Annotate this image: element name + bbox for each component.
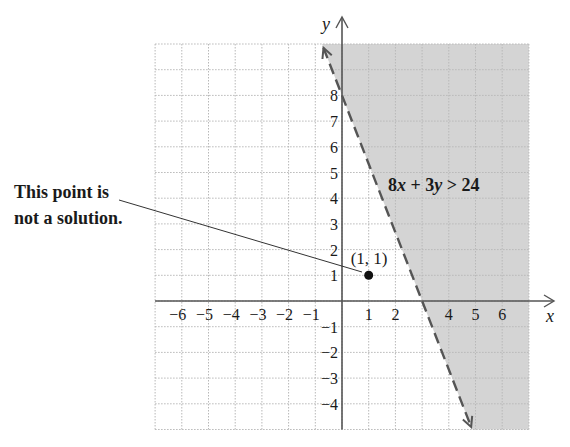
y-tick-label: 2 [330, 242, 338, 259]
annotation-line-1: This point is [14, 179, 123, 205]
y-tick-label: −3 [321, 370, 338, 387]
test-point-dot [364, 271, 373, 280]
y-tick-label: 7 [330, 113, 338, 130]
x-tick-label: 1 [365, 306, 373, 323]
y-tick-label: 8 [330, 87, 338, 104]
x-tick-label: 4 [445, 306, 453, 323]
x-tick-label: −5 [196, 306, 213, 323]
x-axis-label: x [545, 306, 554, 326]
x-tick-label: −4 [223, 306, 240, 323]
test-point-label: (1, 1) [351, 249, 388, 268]
y-tick-label: 3 [330, 216, 338, 233]
y-tick-label: 1 [330, 267, 338, 284]
y-axis-label: y [320, 14, 330, 34]
x-tick-label: −3 [249, 306, 266, 323]
y-tick-label: −4 [321, 396, 338, 413]
shade-polygon [322, 44, 529, 430]
inequality-label: 8x + 3y > 24 [388, 175, 480, 195]
x-tick-label: 5 [472, 306, 480, 323]
x-tick-label: −6 [169, 306, 186, 323]
x-tick-label: 6 [498, 306, 506, 323]
x-tick-label: 2 [391, 306, 399, 323]
y-tick-label: −1 [321, 319, 338, 336]
not-a-solution-annotation: This point is not a solution. [14, 179, 123, 231]
x-tick-label: −2 [276, 306, 293, 323]
y-tick-label: 4 [330, 190, 338, 207]
y-tick-label: 6 [330, 139, 338, 156]
y-tick-label: 5 [330, 165, 338, 182]
y-tick-label: −2 [321, 344, 338, 361]
x-tick-label: −1 [303, 306, 320, 323]
shaded-solution-region [322, 44, 529, 430]
annotation-line-2: not a solution. [14, 205, 123, 231]
